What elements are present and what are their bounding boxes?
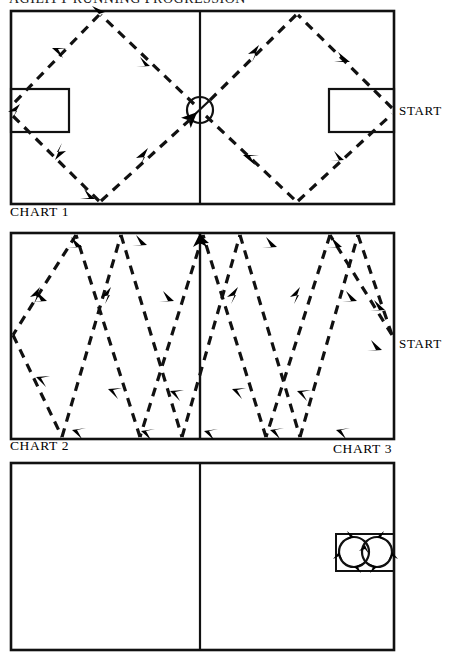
chart-4-court	[0, 455, 456, 656]
chart-1-caption: CHART 1	[10, 204, 69, 220]
right-diamond-path	[206, 15, 392, 201]
left-diamond-path	[13, 15, 194, 201]
chart-1-start-label: START	[399, 103, 442, 119]
left-diamond-arrows	[8, 6, 150, 199]
drill-circle-right	[362, 537, 392, 567]
right-diamond-arrows	[243, 45, 350, 165]
chart-2-caption: CHART 2	[10, 438, 69, 454]
agility-running-progression-figure: AGILITY RUNNING PROGRESSION	[0, 0, 456, 656]
chart-2-3-court	[0, 225, 456, 447]
chart-1-court	[0, 0, 456, 215]
zigzag-path-return	[13, 235, 392, 437]
drill-circle-left	[339, 537, 369, 567]
zigzag-arrows	[30, 233, 385, 440]
right-goal-box	[329, 89, 394, 132]
chart-2-3-start-label: START	[399, 336, 442, 352]
court-outline	[11, 233, 394, 439]
zigzag-path-outbound	[13, 235, 392, 437]
drill-circle-arrows	[333, 531, 398, 573]
